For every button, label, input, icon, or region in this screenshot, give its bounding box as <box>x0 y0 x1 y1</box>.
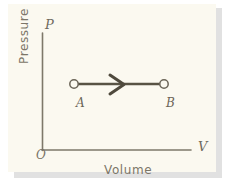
state-marker-a <box>70 80 78 88</box>
figure-paper-panel: P V O Pressure Volume A B <box>8 4 216 172</box>
x-axis-title: Volume <box>104 164 152 176</box>
origin-label: O <box>36 149 46 161</box>
state-label-a: A <box>76 97 85 109</box>
state-marker-b <box>160 80 168 88</box>
y-axis-title: Pressure <box>18 8 30 64</box>
axes-and-process-drawing <box>8 4 216 172</box>
x-axis-tip-symbol: V <box>198 140 207 153</box>
state-label-b: B <box>166 97 175 109</box>
pv-diagram-figure: P V O Pressure Volume A B <box>0 0 228 190</box>
plot-area: P V O Pressure Volume A B <box>8 4 216 172</box>
y-axis-tip-symbol: P <box>45 18 54 31</box>
